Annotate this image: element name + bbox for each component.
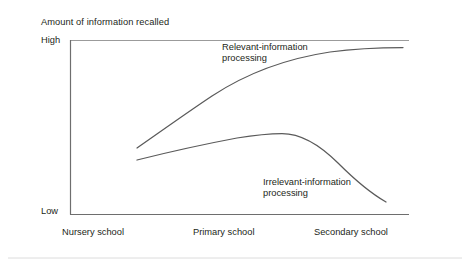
series-curve-irrelevant-information-processing xyxy=(137,134,386,203)
plot-area xyxy=(0,0,470,273)
series-curve-relevant-information-processing xyxy=(137,48,403,149)
footer-divider xyxy=(0,255,470,261)
chart-figure: Amount of information recalled High Low … xyxy=(0,0,470,273)
